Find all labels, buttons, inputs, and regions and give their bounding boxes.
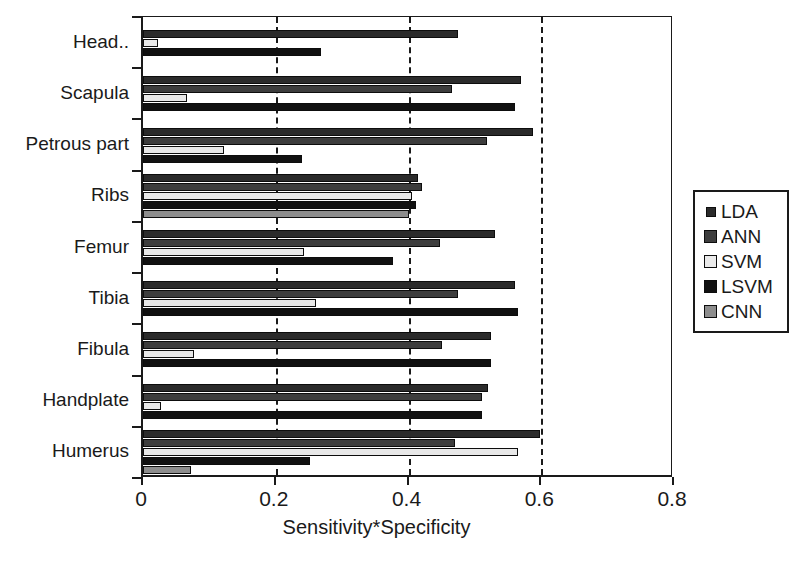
bar-chart: Head..ScapulaPetrous partRibsFemurTibiaF… xyxy=(0,0,801,565)
y-axis-tick xyxy=(132,375,142,377)
legend-swatch-icon xyxy=(704,305,717,318)
x-axis-tick xyxy=(407,477,409,485)
bar-lda xyxy=(143,76,521,84)
bar-lda xyxy=(143,384,488,392)
bar-group xyxy=(143,273,671,324)
legend-swatch-icon xyxy=(704,230,717,243)
y-axis-label: Petrous part xyxy=(0,134,129,153)
bar-svm xyxy=(143,448,518,456)
y-axis-label: Handplate xyxy=(0,390,129,409)
bar-lda xyxy=(143,128,533,136)
x-axis-title-text: Sensitivity*Specificity xyxy=(283,516,471,539)
bar-lda xyxy=(143,174,418,182)
bar-lsvm xyxy=(143,155,302,163)
y-axis-tick xyxy=(132,118,142,120)
y-axis-tick xyxy=(132,272,142,274)
bar-lda xyxy=(143,332,491,340)
y-axis-tick xyxy=(132,67,142,69)
y-axis-label: Fibula xyxy=(0,339,129,358)
y-axis-label: Femur xyxy=(0,237,129,256)
x-axis-tick-label: 0.6 xyxy=(504,487,574,511)
y-axis-tick xyxy=(132,170,142,172)
bar-group xyxy=(143,119,671,170)
bar-lsvm xyxy=(143,257,393,265)
bar-lsvm xyxy=(143,308,518,316)
legend-swatch-icon xyxy=(704,255,717,268)
bar-lda xyxy=(143,430,540,438)
y-axis-label: Tibia xyxy=(0,288,129,307)
bar-group xyxy=(143,222,671,273)
x-axis-title: Sensitivity*Specificity xyxy=(0,516,801,539)
bar-lda xyxy=(143,230,495,238)
bar-group xyxy=(143,68,671,119)
x-axis-tick-label: 0.2 xyxy=(239,487,309,511)
bar-group xyxy=(143,171,671,222)
legend-item-label: SVM xyxy=(721,252,762,271)
bar-lsvm xyxy=(143,457,310,465)
legend-item-label: LSVM xyxy=(721,277,773,296)
legend-item-ann[interactable]: ANN xyxy=(704,224,781,249)
x-axis-tick xyxy=(539,477,541,485)
bar-lsvm xyxy=(143,359,491,367)
legend-item-label: CNN xyxy=(721,302,762,321)
bar-lsvm xyxy=(143,103,515,111)
y-axis-tick xyxy=(132,426,142,428)
bar-lsvm xyxy=(143,411,482,419)
y-axis-label: Head.. xyxy=(0,32,129,51)
bar-ann xyxy=(143,393,482,401)
bar-svm xyxy=(143,299,316,307)
x-axis-tick-label: 0.4 xyxy=(372,487,442,511)
legend-item-lda[interactable]: LDA xyxy=(704,199,781,224)
bar-svm xyxy=(143,192,412,200)
x-axis-tick-label: 0.8 xyxy=(637,487,707,511)
bar-ann xyxy=(143,341,442,349)
bar-group xyxy=(143,17,671,68)
bar-lda xyxy=(143,281,515,289)
y-axis-label: Ribs xyxy=(0,185,129,204)
y-axis-label: Scapula xyxy=(0,83,129,102)
legend-swatch-icon xyxy=(704,280,717,293)
bar-group xyxy=(143,427,671,478)
bar-lsvm xyxy=(143,201,416,209)
legend-item-cnn[interactable]: CNN xyxy=(704,299,781,324)
bar-svm xyxy=(143,248,304,256)
y-axis-tick xyxy=(132,16,142,18)
bar-group xyxy=(143,324,671,375)
bar-ann xyxy=(143,183,422,191)
bar-svm xyxy=(143,350,194,358)
y-axis-label: Humerus xyxy=(0,441,129,460)
x-axis-tick xyxy=(672,477,674,485)
bar-cnn xyxy=(143,466,191,474)
legend-item-svm[interactable]: SVM xyxy=(704,249,781,274)
bar-cnn xyxy=(143,210,409,218)
bar-ann xyxy=(143,439,455,447)
bar-svm xyxy=(143,402,161,410)
bar-lda xyxy=(143,30,458,38)
legend-item-lsvm[interactable]: LSVM xyxy=(704,274,781,299)
x-axis-tick-label: 0 xyxy=(106,487,176,511)
bar-ann xyxy=(143,85,452,93)
bar-ann xyxy=(143,137,487,145)
plot-area xyxy=(141,16,672,477)
x-axis-tick xyxy=(141,477,143,485)
x-axis-tick xyxy=(274,477,276,485)
bar-ann xyxy=(143,290,458,298)
y-axis-tick xyxy=(132,323,142,325)
bar-lsvm xyxy=(143,48,321,56)
legend-item-label: ANN xyxy=(721,227,761,246)
bar-group xyxy=(143,376,671,427)
legend-item-label: LDA xyxy=(721,202,758,221)
y-axis-tick xyxy=(132,221,142,223)
bar-ann xyxy=(143,239,440,247)
legend: LDAANNSVMLSVMCNN xyxy=(693,190,789,333)
bar-svm xyxy=(143,94,187,102)
legend-swatch-icon xyxy=(706,207,716,217)
bar-svm xyxy=(143,146,224,154)
bar-svm xyxy=(143,39,158,47)
